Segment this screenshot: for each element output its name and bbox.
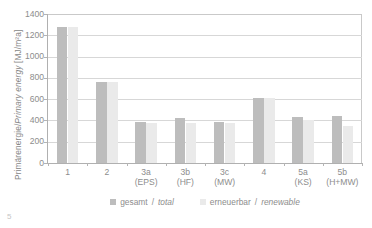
x-axis-tick-label: 4: [244, 167, 283, 177]
bar-renewable[interactable]: [264, 98, 275, 163]
x-axis-tick-label: 3a(EPS): [127, 167, 166, 187]
x-axis-tick-label: 3b(HF): [166, 167, 205, 187]
bar-total[interactable]: [57, 27, 68, 163]
x-axis-tick-mark: [127, 163, 128, 166]
bar-group: [284, 14, 323, 163]
x-axis-tick-labels: 123a(EPS)3b(HF)3c(MW)45a(KS)5b(H+MW): [48, 163, 362, 193]
x-axis-tick-mark: [284, 163, 285, 166]
y-axis-tick-label: 400: [30, 116, 44, 125]
bar-group: [127, 14, 166, 163]
legend-swatch-total-icon: [110, 199, 116, 205]
bar-total[interactable]: [175, 118, 186, 163]
x-axis-label-secondary: (HF): [166, 177, 205, 187]
y-axis-tick-label: 800: [30, 73, 44, 82]
x-axis-tick-label: 3c(MW): [205, 167, 244, 187]
x-axis-tick-mark: [362, 163, 363, 166]
x-axis-tick-label: 2: [87, 167, 126, 177]
x-axis-label-secondary: (H+MW): [323, 177, 362, 187]
bar-total[interactable]: [96, 82, 107, 163]
y-axis-tick-label: 1200: [25, 31, 44, 40]
y-axis-tick-label: 600: [30, 95, 44, 104]
y-axis-title-wrapper: Primärenergie/Primary energy [MJ/m²a]: [0, 8, 18, 180]
x-axis-label-primary: 1: [65, 167, 70, 177]
plot-area: [48, 14, 362, 163]
bar-renewable[interactable]: [146, 123, 157, 163]
bar-renewable[interactable]: [343, 126, 354, 163]
figure-number: 5: [7, 212, 11, 221]
y-axis-tick-labels: 0200400600800100012001400: [18, 0, 47, 228]
y-axis-tick-label: 1400: [25, 10, 44, 19]
chart-figure: Primärenergie/Primary energy [MJ/m²a] 02…: [0, 0, 372, 228]
x-axis-label-primary: 3b: [181, 167, 191, 177]
legend-swatch-renewable-icon: [200, 199, 206, 205]
x-axis-tick-mark: [87, 163, 88, 166]
x-axis-label-primary: 4: [261, 167, 266, 177]
x-axis-label-primary: 3c: [220, 167, 229, 177]
legend-label-renewable-en: renewable: [261, 197, 300, 207]
x-axis-tick-label: 5b(H+MW): [323, 167, 362, 187]
x-axis-tick-mark: [166, 163, 167, 166]
legend-label-total-en: total: [158, 197, 174, 207]
bar-group: [205, 14, 244, 163]
legend-separator-renewable: /: [255, 197, 257, 207]
y-axis-tick-label: 200: [30, 137, 44, 146]
x-axis-tick-mark: [244, 163, 245, 166]
x-axis-tick-mark: [205, 163, 206, 166]
bar-renewable[interactable]: [186, 123, 197, 163]
bar-total[interactable]: [332, 116, 343, 163]
bar-group: [48, 14, 87, 163]
chart-legend: gesamt/total erneuerbar/renewable: [48, 195, 362, 209]
x-axis-label-primary: 5b: [338, 167, 348, 177]
bar-total[interactable]: [253, 98, 264, 163]
bar-group: [323, 14, 362, 163]
x-axis-label-primary: 3a: [141, 167, 151, 177]
x-axis-label-secondary: (MW): [205, 177, 244, 187]
y-axis-tick-label: 1000: [25, 52, 44, 61]
legend-item-renewable[interactable]: erneuerbar/renewable: [200, 197, 300, 207]
bar-total[interactable]: [135, 122, 146, 163]
x-axis-label-primary: 5a: [298, 167, 308, 177]
legend-label-renewable-de: erneuerbar: [210, 197, 251, 207]
bar-group: [244, 14, 283, 163]
legend-item-total[interactable]: gesamt/total: [110, 197, 174, 207]
x-axis-label-primary: 2: [104, 167, 109, 177]
bar-group: [87, 14, 126, 163]
legend-label-total-de: gesamt: [120, 197, 147, 207]
bar-total[interactable]: [214, 122, 225, 164]
legend-separator-total: /: [152, 197, 154, 207]
bar-total[interactable]: [292, 117, 303, 163]
bar-renewable[interactable]: [225, 123, 236, 163]
bar-renewable[interactable]: [68, 27, 79, 163]
x-axis-tick-mark: [323, 163, 324, 166]
bar-renewable[interactable]: [303, 120, 314, 163]
bar-group: [166, 14, 205, 163]
bar-renewable[interactable]: [107, 82, 118, 163]
x-axis-tick-mark: [48, 163, 49, 166]
x-axis-tick-label: 1: [48, 167, 87, 177]
x-axis-label-secondary: (KS): [284, 177, 323, 187]
x-axis-tick-label: 5a(KS): [284, 167, 323, 187]
x-axis-label-secondary: (EPS): [127, 177, 166, 187]
